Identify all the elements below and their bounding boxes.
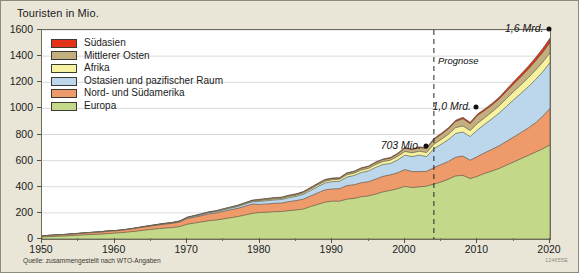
- y-axis-label: 800: [1, 128, 33, 140]
- x-axis-tick-major: [476, 238, 477, 243]
- legend-swatch: [51, 51, 77, 60]
- y-axis-tick: [37, 107, 41, 108]
- x-axis-tick-minor: [295, 238, 296, 241]
- value-1-6-mrd-marker: [547, 27, 552, 32]
- legend-swatch: [51, 39, 77, 48]
- y-axis-tick: [37, 29, 41, 30]
- x-axis-tick-major: [331, 238, 332, 243]
- legend-item: Europa: [51, 100, 223, 113]
- value-703-mio-label: 703 Mio.: [381, 139, 421, 151]
- x-axis-tick-major: [114, 238, 115, 243]
- value-1-mrd-marker: [474, 105, 479, 110]
- x-axis-tick-minor: [222, 238, 223, 241]
- x-axis-tick-minor: [77, 238, 78, 241]
- x-axis-label: 2000: [392, 243, 415, 255]
- legend-label: Südasien: [84, 37, 126, 50]
- chart-legend: SüdasienMittlerer OstenAfrikaOstasien un…: [51, 37, 223, 113]
- legend-label: Mittlerer Osten: [84, 50, 150, 63]
- y-axis-tick: [37, 81, 41, 82]
- x-axis-tick-major: [186, 238, 187, 243]
- legend-swatch: [51, 102, 77, 111]
- x-axis-tick-minor: [513, 238, 514, 241]
- x-axis-label: 1950: [29, 243, 52, 255]
- legend-item: Ostasien und pazifischer Raum: [51, 75, 223, 88]
- legend-swatch: [51, 64, 77, 73]
- chart-figure: Touristen in Mio. 0200400600800100012001…: [0, 0, 579, 273]
- y-axis-label: 1400: [1, 49, 33, 61]
- forecast-label: Prognose: [438, 55, 479, 66]
- x-axis-label: 2020: [537, 243, 560, 255]
- legend-swatch: [51, 89, 77, 98]
- y-axis-label: 1200: [1, 75, 33, 87]
- legend-label: Ostasien und pazifischer Raum: [84, 75, 223, 88]
- legend-item: Mittlerer Osten: [51, 50, 223, 63]
- figure-code: 124655E: [545, 257, 568, 263]
- x-axis-tick-minor: [368, 238, 369, 241]
- legend-item: Afrika: [51, 62, 223, 75]
- y-axis-tick: [37, 212, 41, 213]
- y-axis-label: 600: [1, 154, 33, 166]
- y-axis-label: 200: [1, 206, 33, 218]
- x-axis-tick-major: [549, 238, 550, 243]
- legend-swatch: [51, 77, 77, 86]
- legend-label: Afrika: [84, 62, 110, 75]
- x-axis-tick-major: [41, 238, 42, 243]
- y-axis-label: 0: [1, 232, 33, 244]
- y-axis-tick: [37, 134, 41, 135]
- legend-item: Nord- und Südamerika: [51, 87, 223, 100]
- y-axis-label: 1000: [1, 101, 33, 113]
- x-axis-label: 1990: [320, 243, 343, 255]
- value-703-mio-marker: [423, 144, 428, 149]
- x-axis-label: 2010: [465, 243, 488, 255]
- x-axis-tick-major: [259, 238, 260, 243]
- x-axis-label: 1980: [247, 243, 270, 255]
- x-axis-tick-major: [404, 238, 405, 243]
- x-axis-tick-minor: [440, 238, 441, 241]
- source-note: Quelle: zusammengestellt nach WTO-Angabe…: [23, 257, 161, 264]
- x-axis-label: 1970: [174, 243, 197, 255]
- y-axis-label: 1600: [1, 23, 33, 35]
- legend-label: Europa: [84, 100, 116, 113]
- y-axis-tick: [37, 186, 41, 187]
- value-1-6-mrd-label: 1,6 Mrd.: [505, 22, 544, 34]
- x-axis-tick-minor: [150, 238, 151, 241]
- legend-item: Südasien: [51, 37, 223, 50]
- legend-label: Nord- und Südamerika: [84, 87, 185, 100]
- y-axis-tick: [37, 55, 41, 56]
- y-axis-tick: [37, 160, 41, 161]
- chart-title: Touristen in Mio.: [17, 7, 99, 19]
- value-1-mrd-label: 1,0 Mrd.: [432, 100, 471, 112]
- y-axis-label: 400: [1, 180, 33, 192]
- x-axis-label: 1960: [102, 243, 125, 255]
